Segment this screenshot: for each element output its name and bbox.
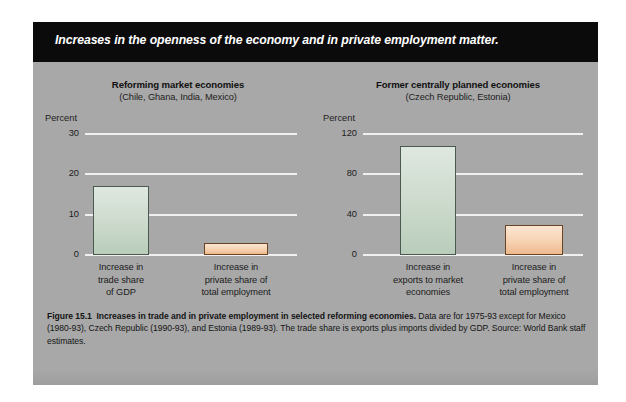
bar-category-label-line: economies [368,286,488,299]
figure-root: Increases in the openness of the economy… [0,0,626,402]
y-axis-tick-label: 120 [315,129,357,138]
bar [400,146,456,255]
y-axis-tick-label: 40 [315,210,357,219]
y-axis-tick-label: 0 [41,250,79,259]
bar-category-label-line: Increase in [71,261,171,274]
gridline [363,173,583,175]
bar-category-label-line: trade share [71,274,171,287]
caption-figure-label: Figure 15.1 [47,311,92,321]
y-axis-tick-label: 0 [315,250,357,259]
y-axis-tick-label: 80 [315,169,357,178]
bar-category-label: Increase inprivate share oftotal employm… [180,261,292,299]
bar-category-label-line: private share of [180,274,292,287]
bar-category-label: Increase inprivate share oftotal employm… [478,261,590,299]
bar-category-label-line: Increase in [478,261,590,274]
plot-area: 0102030Increase intrade shareof GDPIncre… [33,62,323,307]
bar [204,243,268,255]
caption-headline: Increases in trade and in private employ… [97,311,416,321]
bar-category-label-line: total employment [478,286,590,299]
bar [505,225,563,255]
y-axis-tick-label: 20 [41,169,79,178]
bar [93,186,149,255]
bar-category-label-line: Increase in [180,261,292,274]
figure-banner: Increases in the openness of the economy… [33,22,598,62]
banner-headline: Increases in the openness of the economy… [55,33,499,47]
chart-reforming-market-economies: Reforming market economies (Chile, Ghana… [33,62,323,307]
gridline [85,173,297,175]
y-axis-tick-label: 30 [41,129,79,138]
plot-area: 04080120Increase inexports to marketecon… [313,62,603,307]
bar-category-label-line: total employment [180,286,292,299]
bar-category-label-line: Increase in [368,261,488,274]
gridline [363,133,583,135]
gridline [85,133,297,135]
bar-category-label: Increase inexports to marketeconomies [368,261,488,299]
chart-former-centrally-planned-economies: Former centrally planned economies (Czec… [313,62,603,307]
bar-category-label-line: private share of [478,274,590,287]
bar-category-label: Increase intrade shareof GDP [71,261,171,299]
gridline [363,214,583,216]
figure-caption: Figure 15.1 Increases in trade and in pr… [47,310,587,347]
y-axis-tick-label: 10 [41,210,79,219]
bar-category-label-line: of GDP [71,286,171,299]
bar-category-label-line: exports to market [368,274,488,287]
